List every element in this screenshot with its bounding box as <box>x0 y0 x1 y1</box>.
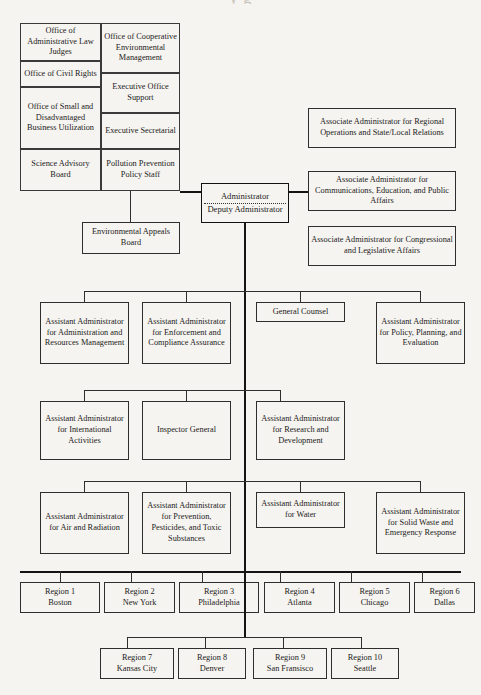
box-pollution-prevention-policy-staff: Pollution Prevention Policy Staff <box>101 149 180 191</box>
box-aa-prevention-pesticides-toxic: Assistant Administrator for Prevention, … <box>142 492 231 554</box>
box-label: Assistant Administrator for Water <box>259 499 342 521</box>
connector-region-drop-3 <box>202 571 203 582</box>
connector-region-drop-7 <box>127 637 128 648</box>
region-city: Atlanta <box>267 598 332 609</box>
deputy-administrator-title: Deputy Administrator <box>204 204 286 215</box>
box-inspector-general: Inspector General <box>142 401 231 460</box>
region-city: San Fransisco <box>256 664 324 675</box>
trunk-to-regions-row-two <box>244 571 246 638</box>
box-environmental-appeals-board: Environmental Appeals Board <box>82 222 180 254</box>
region-city: Seattle <box>334 664 396 675</box>
box-region-10: Region 10 Seattle <box>331 648 399 679</box>
box-label: Assistant Administrator for Internationa… <box>43 414 126 446</box>
region-number: Region 6 <box>417 587 472 598</box>
trunk-main-vertical <box>244 223 246 571</box>
box-office-administrative-law-judges: Office of Administrative Law Judges <box>20 23 101 61</box>
box-label: Pollution Prevention Policy Staff <box>104 159 177 181</box>
region-city: Denver <box>181 664 243 675</box>
connector-tier-two-drop-3 <box>280 390 281 401</box>
box-aa-international-activities: Assistant Administrator for Internationa… <box>40 401 129 460</box>
region-city: Dallas <box>417 598 472 609</box>
region-city: Chicago <box>342 598 407 609</box>
connector-region-drop-8 <box>205 637 206 648</box>
box-label: Associate Administrator for Regional Ope… <box>311 117 453 139</box>
region-number: Region 4 <box>267 587 332 598</box>
box-label: Office of Small and Disadvantaged Busine… <box>23 102 98 134</box>
region-city: New York <box>107 598 172 609</box>
box-label: Executive Office Support <box>104 82 177 104</box>
box-aa-air-radiation: Assistant Administrator for Air and Radi… <box>40 492 129 554</box>
connector-region-drop-9 <box>283 637 284 648</box>
box-office-civil-rights: Office of Civil Rights <box>20 61 101 87</box>
box-label: Assistant Administrator for Prevention, … <box>145 501 228 544</box>
box-administrator-deputy-administrator: Administrator Deputy Administrator <box>201 183 289 223</box>
connector-tier-one-drop-2 <box>186 291 187 302</box>
connector-tier-one-drop-4 <box>420 291 421 302</box>
box-office-small-disadvantaged-business: Office of Small and Disadvantaged Busine… <box>20 87 101 149</box>
box-aa-administration-resources-management: Assistant Administrator for Administrati… <box>40 302 129 364</box>
connector-tier-three-drop-4 <box>420 481 421 492</box>
box-label: Assistant Administrator for Solid Waste … <box>379 507 462 539</box>
region-number: Region 5 <box>342 587 407 598</box>
connector-administrator-to-associates <box>289 191 308 193</box>
box-executive-office-support: Executive Office Support <box>101 73 180 113</box>
region-city: Kansas City <box>103 664 171 675</box>
connector-region-drop-6 <box>422 571 423 582</box>
box-label: Assistant Administrator for Enforcement … <box>145 317 228 349</box>
box-label: Assistant Administrator for Policy, Plan… <box>379 317 462 349</box>
region-city: Boston <box>23 598 97 609</box>
connector-regions-row-two-bus <box>127 637 361 638</box>
box-associate-communications-education: Associate Administrator for Communicatio… <box>308 171 456 211</box>
connector-tier-three-drop-3 <box>300 481 301 492</box>
box-science-advisory-board: Science Advisory Board <box>20 149 101 191</box>
region-number: Region 10 <box>334 653 396 664</box>
connector-eab-stem <box>130 191 131 222</box>
connector-region-drop-2 <box>131 571 132 582</box>
box-region-1: Region 1 Boston <box>20 582 100 613</box>
box-region-2: Region 2 New York <box>104 582 175 613</box>
box-label: Associate Administrator for Congressiona… <box>311 235 453 257</box>
box-label: General Counsel <box>259 307 342 318</box>
box-aa-policy-planning-evaluation: Assistant Administrator for Policy, Plan… <box>376 302 465 364</box>
region-number: Region 9 <box>256 653 324 664</box>
region-number: Region 1 <box>23 587 97 598</box>
box-associate-congressional-legislative: Associate Administrator for Congressiona… <box>308 226 456 266</box>
administrator-title: Administrator <box>204 191 286 203</box>
page-title-cutoff: y g <box>0 0 481 4</box>
connector-tier-one-drop-1 <box>84 291 85 302</box>
box-region-3: Region 3 Philadelphia <box>179 582 259 613</box>
connector-regions-bus <box>20 571 461 573</box>
box-label: Associate Administrator for Communicatio… <box>311 175 453 207</box>
region-number: Region 2 <box>107 587 172 598</box>
box-label: Assistant Administrator for Research and… <box>259 414 342 446</box>
box-aa-water: Assistant Administrator for Water <box>256 492 345 528</box>
box-label: Executive Secretarial <box>104 126 177 137</box>
connector-region-drop-4 <box>280 571 281 582</box>
box-aa-research-development: Assistant Administrator for Research and… <box>256 401 345 460</box>
box-associate-regional-operations: Associate Administrator for Regional Ope… <box>308 108 456 148</box>
box-aa-solid-waste-emergency-response: Assistant Administrator for Solid Waste … <box>376 492 465 554</box>
box-label: Office of Cooperative Environmental Mana… <box>104 32 177 64</box>
box-aa-enforcement-compliance-assurance: Assistant Administrator for Enforcement … <box>142 302 231 364</box>
box-label: Office of Administrative Law Judges <box>23 26 98 58</box>
box-label: Inspector General <box>145 425 228 436</box>
connector-tier-three-drop-2 <box>186 481 187 492</box>
box-region-9: Region 9 San Fransisco <box>253 648 327 679</box>
connector-tier-two-drop-2 <box>186 390 187 401</box>
box-region-6: Region 6 Dallas <box>414 582 475 613</box>
box-label: Environmental Appeals Board <box>85 227 177 249</box>
box-label: Assistant Administrator for Administrati… <box>43 317 126 349</box>
connector-staff-grid-to-administrator <box>180 191 201 193</box>
connector-tier-three-bus <box>84 481 421 482</box>
box-label: Office of Civil Rights <box>23 69 98 80</box>
connector-region-drop-5 <box>351 571 352 582</box>
box-executive-secretarial: Executive Secretarial <box>101 113 180 149</box>
org-chart: y g Office of Administrative Law Judges … <box>0 0 481 695</box>
box-region-8: Region 8 Denver <box>178 648 246 679</box>
box-label: Science Advisory Board <box>23 159 98 181</box>
connector-region-drop-10 <box>361 637 362 648</box>
connector-tier-one-drop-3 <box>300 291 301 302</box>
region-number: Region 8 <box>181 653 243 664</box>
box-office-cooperative-environmental-management: Office of Cooperative Environmental Mana… <box>101 23 180 73</box>
box-region-5: Region 5 Chicago <box>339 582 410 613</box>
